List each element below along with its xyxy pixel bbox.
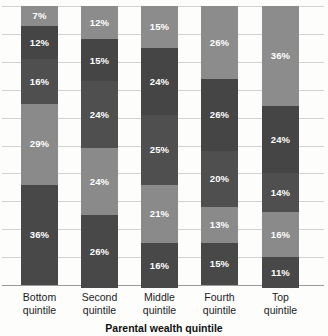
bar-segment-value-label: 12% (30, 38, 49, 48)
bar-segment-value-label: 15% (90, 56, 109, 66)
bar-segment[interactable]: 14% (262, 173, 299, 212)
bar-segment-value-label: 12% (90, 18, 109, 28)
bar-segment-value-label: 15% (210, 259, 229, 269)
bar-segment-value-label: 36% (271, 51, 290, 61)
category-label-line1: Bottom (8, 291, 72, 304)
bar-segment-value-label: 16% (150, 261, 169, 271)
category-label-line1: Top (249, 291, 313, 304)
category-label-second-quintile: Secondquintile (68, 291, 132, 317)
category-label-line1: Middle (128, 291, 192, 304)
bar-segment-value-label: 25% (150, 145, 169, 155)
bar-fourth-quintile[interactable]: 26%26%20%13%15% (201, 6, 238, 285)
bar-segment[interactable]: 26% (201, 6, 238, 79)
bar-segment-value-label: 16% (271, 230, 290, 240)
bar-segment[interactable]: 25% (141, 115, 178, 185)
bar-segment[interactable]: 26% (81, 215, 118, 288)
bar-middle-quintile[interactable]: 15%24%25%21%16% (141, 6, 178, 285)
stacked-bar-chart: 7%12%16%29%36%12%15%24%24%26%15%24%25%21… (0, 0, 328, 336)
bar-segment[interactable]: 36% (21, 185, 58, 285)
bar-segment-value-label: 21% (150, 209, 169, 219)
bar-segment-value-label: 26% (210, 110, 229, 120)
bars-layer: 7%12%16%29%36%12%15%24%24%26%15%24%25%21… (0, 4, 328, 285)
bar-segment[interactable]: 15% (81, 39, 118, 81)
bar-segment-value-label: 24% (90, 177, 109, 187)
bar-segment-value-label: 26% (90, 247, 109, 257)
bar-segment[interactable]: 20% (201, 151, 238, 207)
bar-segment[interactable]: 11% (262, 257, 299, 288)
bar-segment-value-label: 29% (30, 139, 49, 149)
category-axis-labels: BottomquintileSecondquintileMiddlequinti… (0, 291, 328, 323)
bar-segment-value-label: 20% (210, 174, 229, 184)
bar-segment-value-label: 24% (90, 110, 109, 120)
bar-bottom-quintile[interactable]: 7%12%16%29%36% (21, 6, 58, 285)
category-label-line2: quintile (128, 304, 192, 317)
bar-second-quintile[interactable]: 12%15%24%24%26% (81, 6, 118, 285)
bar-segment-value-label: 26% (210, 38, 229, 48)
category-label-line2: quintile (188, 304, 252, 317)
bar-segment[interactable]: 13% (201, 207, 238, 243)
bar-segment[interactable]: 36% (262, 6, 299, 106)
category-label-line1: Second (68, 291, 132, 304)
bar-segment-value-label: 7% (33, 11, 47, 21)
category-label-line2: quintile (68, 304, 132, 317)
bar-segment[interactable]: 15% (201, 243, 238, 285)
bar-segment-value-label: 24% (150, 77, 169, 87)
plot-area: 7%12%16%29%36%12%15%24%24%26%15%24%25%21… (0, 4, 328, 289)
bar-segment-value-label: 15% (150, 22, 169, 32)
bar-segment[interactable]: 24% (141, 48, 178, 115)
bar-segment[interactable]: 12% (21, 26, 58, 59)
x-axis-title: Parental wealth quintile (0, 322, 328, 334)
bar-segment[interactable]: 7% (21, 6, 58, 26)
bar-segment[interactable]: 26% (201, 79, 238, 152)
category-label-fourth-quintile: Fourthquintile (188, 291, 252, 317)
category-label-top-quintile: Topquintile (249, 291, 313, 317)
bar-segment[interactable]: 15% (141, 6, 178, 48)
category-label-middle-quintile: Middlequintile (128, 291, 192, 317)
bar-segment[interactable]: 29% (21, 104, 58, 185)
bar-segment-value-label: 13% (210, 220, 229, 230)
bar-segment[interactable]: 16% (262, 212, 299, 257)
bar-segment[interactable]: 16% (21, 59, 58, 104)
bar-top-quintile[interactable]: 36%24%14%16%11% (262, 6, 299, 285)
bar-segment-value-label: 16% (30, 77, 49, 87)
bar-segment-value-label: 14% (271, 188, 290, 198)
category-label-bottom-quintile: Bottomquintile (8, 291, 72, 317)
category-label-line2: quintile (8, 304, 72, 317)
bar-segment-value-label: 11% (271, 268, 290, 278)
bar-segment[interactable]: 24% (81, 81, 118, 148)
bar-segment[interactable]: 24% (81, 148, 118, 215)
category-label-line1: Fourth (188, 291, 252, 304)
bar-segment[interactable]: 21% (141, 185, 178, 244)
bar-segment[interactable]: 16% (141, 243, 178, 288)
category-label-line2: quintile (249, 304, 313, 317)
bar-segment-value-label: 36% (30, 230, 49, 240)
bar-segment-value-label: 24% (271, 135, 290, 145)
bar-segment[interactable]: 24% (262, 106, 299, 173)
bar-segment[interactable]: 12% (81, 6, 118, 39)
